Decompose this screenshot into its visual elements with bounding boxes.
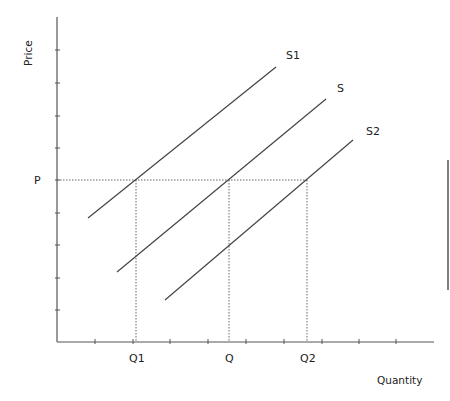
label-q2: Q2: [300, 352, 316, 365]
curve-s: [117, 99, 326, 272]
curve-s2: [165, 140, 353, 300]
label-q1: Q1: [129, 352, 145, 365]
curve-s1: [88, 67, 276, 218]
label-p: P: [34, 174, 41, 187]
label-s: S: [337, 82, 344, 95]
reference-lines: [57, 180, 307, 342]
label-s1: S1: [286, 49, 300, 62]
label-s2: S2: [366, 125, 380, 138]
x-axis-title: Quantity: [377, 374, 422, 386]
label-q: Q: [225, 352, 234, 365]
y-axis-title: Price: [22, 40, 34, 66]
supply-shift-chart: S1 S S2 P Q1 Q Q2 Price Quantity: [0, 0, 450, 401]
